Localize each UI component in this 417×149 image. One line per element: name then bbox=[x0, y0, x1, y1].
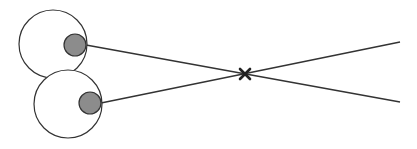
eyes bbox=[19, 10, 102, 138]
lower-eye bbox=[34, 70, 102, 138]
eye-sight-diagram bbox=[0, 0, 417, 149]
pupil-circle bbox=[64, 34, 86, 56]
pupil-circle bbox=[79, 92, 101, 114]
upper-eye bbox=[19, 10, 87, 78]
